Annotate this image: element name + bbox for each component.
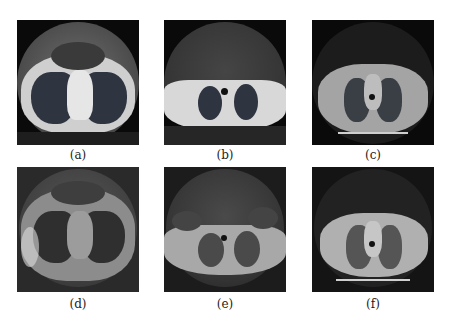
ct-image-f <box>312 167 434 292</box>
ct-image-c <box>312 20 434 145</box>
panel-label-b: (b) <box>164 148 286 162</box>
ct-image-e <box>164 167 286 292</box>
panel-label-f: (f) <box>312 297 434 311</box>
ct-image-a <box>17 20 139 145</box>
ct-image-d <box>17 167 139 292</box>
panel-label-c: (c) <box>312 148 434 162</box>
ct-image-b <box>164 20 286 145</box>
panel-label-e: (e) <box>164 297 286 311</box>
panel-label-a: (a) <box>17 148 139 162</box>
panel-label-d: (d) <box>17 297 139 311</box>
